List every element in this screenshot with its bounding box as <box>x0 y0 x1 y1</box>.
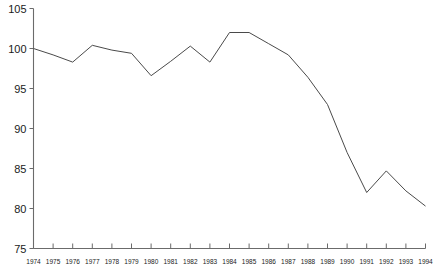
x-tick-label: 1979 <box>124 258 139 265</box>
x-tick-label: 1974 <box>26 258 41 265</box>
y-tick-label: 85 <box>14 163 26 175</box>
x-tick-label: 1982 <box>183 258 198 265</box>
x-tick-label: 1993 <box>399 258 414 265</box>
x-tick-label: 1977 <box>85 258 100 265</box>
x-tick-label: 1983 <box>203 258 218 265</box>
x-tick-label: 1980 <box>144 258 159 265</box>
x-tick-label: 1992 <box>379 258 394 265</box>
x-tick-label: 1975 <box>46 258 61 265</box>
y-tick-label: 90 <box>14 123 26 135</box>
x-tick-label: 1984 <box>222 258 237 265</box>
y-tick-label: 80 <box>14 203 26 215</box>
x-tick-label: 1990 <box>340 258 355 265</box>
data-series-line <box>34 33 426 207</box>
chart-canvas: 7580859095100105 19741975197619771978197… <box>0 0 433 273</box>
y-tick-label: 100 <box>8 43 26 55</box>
y-tick-label: 105 <box>8 3 26 15</box>
x-tick-label: 1985 <box>242 258 257 265</box>
x-tick-label: 1981 <box>163 258 178 265</box>
x-tick-label: 1988 <box>301 258 316 265</box>
x-tick-label: 1978 <box>105 258 120 265</box>
x-axis: 1974197519761977197819791980198119821983… <box>26 244 433 265</box>
line-chart: 7580859095100105 19741975197619771978197… <box>0 0 433 273</box>
x-tick-label: 1976 <box>65 258 80 265</box>
x-tick-label: 1987 <box>281 258 296 265</box>
x-tick-label: 1989 <box>320 258 335 265</box>
y-tick-label: 95 <box>14 83 26 95</box>
y-axis: 7580859095100105 <box>8 3 33 255</box>
x-tick-label: 1994 <box>418 258 433 265</box>
x-tick-label: 1991 <box>359 258 374 265</box>
y-tick-label: 75 <box>14 243 26 255</box>
x-tick-label: 1986 <box>261 258 276 265</box>
